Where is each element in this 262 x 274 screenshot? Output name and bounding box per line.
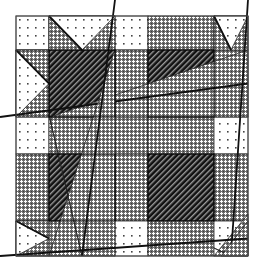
corner-square: [115, 16, 148, 50]
corner-square: [115, 221, 148, 256]
sashing-square: [214, 154, 248, 221]
sashing-square: [115, 154, 148, 221]
quilt-body: [0, 0, 248, 256]
sashing-square: [148, 16, 214, 50]
sashing-square: [16, 154, 49, 221]
quilt-diagram: [0, 0, 262, 274]
star-center: [148, 154, 214, 221]
corner-square: [214, 117, 248, 154]
corner-square: [16, 16, 49, 50]
corner-square: [16, 117, 49, 154]
sashing-square: [148, 117, 214, 154]
sashing-square: [148, 221, 214, 256]
sashing-square: [115, 117, 148, 154]
